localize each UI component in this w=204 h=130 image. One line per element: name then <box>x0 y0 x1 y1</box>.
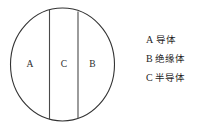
circle-cross-section-diagram: A C B <box>0 0 140 130</box>
legend-text-c: 半导体 <box>155 69 185 86</box>
region-label-c: C <box>61 59 67 69</box>
legend-key-a: A <box>146 31 156 48</box>
legend-item-b: B 绝缘体 <box>146 50 204 67</box>
legend: A 导体 B 绝缘体 C 半导体 <box>146 31 204 86</box>
legend-item-a: A 导体 <box>146 31 204 48</box>
region-label-a: A <box>27 59 34 69</box>
legend-key-b: B <box>146 50 155 67</box>
legend-item-c: C 半导体 <box>146 69 204 86</box>
legend-key-c: C <box>146 69 155 86</box>
figure-root: A C B A 导体 B 绝缘体 C 半导体 <box>0 0 204 130</box>
legend-text-b: 绝缘体 <box>155 50 185 67</box>
legend-text-a: 导体 <box>156 31 176 48</box>
region-label-b: B <box>89 59 95 69</box>
